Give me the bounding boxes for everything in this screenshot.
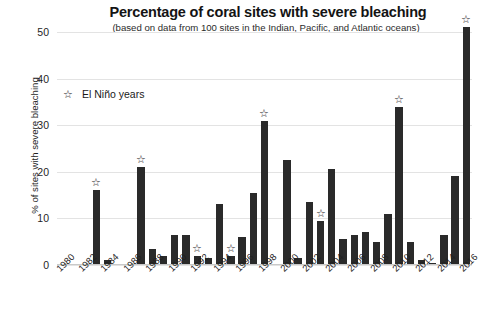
bar-column (169, 32, 180, 265)
bar-column: ☆ (225, 32, 236, 265)
bar-column (180, 32, 191, 265)
bar-column: ☆ (315, 32, 326, 265)
bar-column: ☆ (136, 32, 147, 265)
bar-column (337, 32, 348, 265)
legend-label-el-nino: El Niño years (82, 88, 144, 100)
bar-column (270, 32, 281, 265)
bar-column (113, 32, 124, 265)
bar-column (293, 32, 304, 265)
legend: ☆ El Niño years (63, 88, 144, 100)
bar-column: ☆ (259, 32, 270, 265)
y-tick-label: 20 (11, 167, 49, 178)
bar (328, 169, 335, 265)
y-tick-label: 50 (11, 27, 49, 38)
bar-column (68, 32, 79, 265)
bar-column (360, 32, 371, 265)
bar (137, 167, 144, 265)
bar-column (349, 32, 360, 265)
bar-column (281, 32, 292, 265)
bar-column: ☆ (461, 32, 472, 265)
el-nino-star-icon: ☆ (259, 108, 269, 119)
bar-column (382, 32, 393, 265)
bar-column (203, 32, 214, 265)
bar-column (214, 32, 225, 265)
chart-title: Percentage of coral sites with severe bl… (62, 4, 474, 20)
star-icon: ☆ (63, 89, 73, 100)
el-nino-star-icon: ☆ (91, 177, 101, 188)
el-nino-star-icon: ☆ (316, 208, 326, 219)
bar-column (304, 32, 315, 265)
bar-column (248, 32, 259, 265)
el-nino-star-icon: ☆ (461, 14, 471, 25)
y-tick-label: 30 (11, 120, 49, 131)
bar-column (371, 32, 382, 265)
y-tick-label: 0 (11, 260, 49, 271)
bar-column (427, 32, 438, 265)
bar-column (450, 32, 461, 265)
el-nino-star-icon: ☆ (136, 154, 146, 165)
bar-column (79, 32, 90, 265)
bar-column: ☆ (192, 32, 203, 265)
bar-column: ☆ (91, 32, 102, 265)
bar-column: ☆ (393, 32, 404, 265)
bar (451, 176, 458, 265)
bar (395, 107, 402, 265)
bar-column (147, 32, 158, 265)
bar-column (326, 32, 337, 265)
bar-column (57, 32, 68, 265)
bar-column (405, 32, 416, 265)
el-nino-star-icon: ☆ (394, 94, 404, 105)
bar (261, 121, 268, 265)
bar-column (438, 32, 449, 265)
bar-column (124, 32, 135, 265)
bar-column (236, 32, 247, 265)
y-tick-label: 10 (11, 213, 49, 224)
x-axis-ticks: 1980198219841986198819901992199419961998… (57, 266, 472, 314)
y-tick-label: 40 (11, 74, 49, 85)
bar-series: ☆☆☆☆☆☆☆☆ (57, 32, 472, 265)
bar-column (102, 32, 113, 265)
bar (463, 27, 470, 265)
bar-column (158, 32, 169, 265)
bar (283, 160, 290, 265)
plot-area: 01020304050 ☆☆☆☆☆☆☆☆ (57, 32, 472, 265)
bar-column (416, 32, 427, 265)
